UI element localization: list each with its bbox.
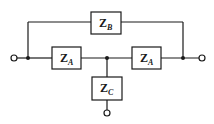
terminal-bottom	[104, 110, 110, 116]
impedance-zb: ZB	[91, 12, 121, 34]
terminal-left	[11, 55, 17, 61]
junction-dot-right	[181, 56, 185, 60]
terminal-right	[199, 55, 205, 61]
impedance-za-left: ZA	[52, 47, 81, 69]
junction-dot-center	[105, 56, 109, 60]
junction-dot-left	[26, 56, 30, 60]
bridged-t-network-diagram: ZB ZA ZA ZC	[0, 0, 214, 124]
impedance-zc: ZC	[92, 77, 122, 100]
impedance-za-right: ZA	[132, 47, 161, 69]
